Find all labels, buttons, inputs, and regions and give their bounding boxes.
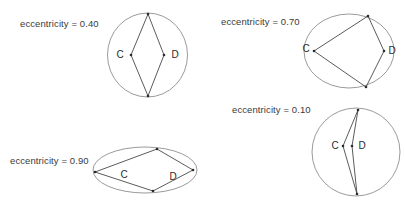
figure-ellipse-090: CD bbox=[93, 147, 197, 193]
figure-ellipse-070: CD bbox=[302, 14, 395, 88]
vertex-dot-bottom bbox=[365, 86, 368, 89]
focus-label-c: C bbox=[116, 49, 123, 60]
vertex-dot-right-focus bbox=[192, 169, 195, 172]
focus-label-d: D bbox=[358, 140, 365, 151]
vertex-dot-right-focus bbox=[163, 54, 166, 57]
vertex-dot-top bbox=[367, 15, 370, 18]
conic-outline bbox=[304, 14, 394, 88]
vertex-dot-left-focus bbox=[313, 50, 316, 53]
geometry-canvas: CD CD CD CD bbox=[0, 0, 405, 213]
figure-ellipse-040: CD bbox=[108, 13, 188, 98]
vertex-dot-left-focus bbox=[94, 171, 97, 174]
focus-label-d: D bbox=[171, 49, 178, 60]
vertex-dot-top bbox=[156, 148, 159, 151]
focus-label-c: C bbox=[302, 43, 309, 54]
focus-label-c: C bbox=[331, 140, 338, 151]
inscribed-quadrilateral bbox=[343, 110, 358, 194]
inscribed-quadrilateral bbox=[314, 16, 384, 87]
focus-label-d: D bbox=[169, 171, 176, 182]
inscribed-quadrilateral bbox=[131, 14, 164, 96]
focus-label-d: D bbox=[388, 45, 395, 56]
vertex-dot-top bbox=[147, 13, 150, 16]
vertex-dot-bottom bbox=[147, 95, 150, 98]
vertex-dot-left-focus bbox=[342, 145, 345, 148]
vertex-dot-right-focus bbox=[351, 145, 354, 148]
vertex-dot-bottom bbox=[152, 190, 155, 193]
vertex-dot-bottom bbox=[356, 193, 359, 196]
focus-label-c: C bbox=[120, 169, 127, 180]
vertex-dot-left-focus bbox=[130, 54, 133, 57]
vertex-dot-right-focus bbox=[383, 50, 386, 53]
vertex-dot-top bbox=[357, 109, 360, 112]
inscribed-quadrilateral bbox=[95, 149, 193, 191]
figure-circle-010: CD bbox=[312, 108, 400, 196]
eccentricity-figure-panel: eccentricity = 0.40 eccentricity = 0.70 … bbox=[0, 0, 405, 213]
